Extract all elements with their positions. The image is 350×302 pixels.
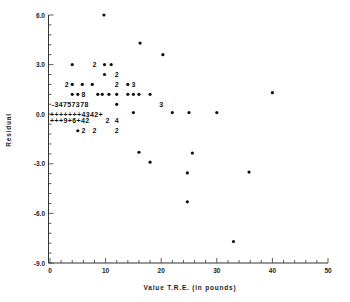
data-point (232, 240, 235, 243)
x-axis (49, 258, 329, 263)
data-point-count: 2 (65, 81, 69, 88)
y-tick-label: 6.0 (36, 12, 45, 19)
y-tick-label: -9.0 (34, 260, 46, 267)
data-point (186, 200, 189, 203)
data-point (96, 93, 99, 96)
data-points: 22223834222 (65, 13, 274, 243)
data-point (126, 83, 129, 86)
data-point (271, 91, 274, 94)
data-point (137, 151, 140, 154)
data-point (148, 161, 151, 164)
x-tick-label: 40 (269, 267, 277, 274)
x-tick-labels: 01020304050 (48, 267, 332, 274)
y-tick-label: 3.0 (36, 61, 45, 68)
data-point (110, 63, 113, 66)
data-point (115, 103, 118, 106)
data-point-count: 8 (81, 91, 85, 98)
data-point (132, 111, 135, 114)
x-tick-label: 50 (324, 267, 332, 274)
data-point (187, 111, 190, 114)
overlap-count-rows: -34757378+++++++4342++++9+6+422 (50, 101, 110, 125)
x-tick-label: 10 (102, 267, 110, 274)
data-point (101, 93, 104, 96)
data-point-count: 4 (115, 117, 119, 124)
data-point (161, 53, 164, 56)
data-point (76, 129, 79, 132)
data-point (81, 83, 84, 86)
data-point-count: 2 (93, 61, 97, 68)
data-point (103, 73, 106, 76)
data-point-count: 2 (115, 81, 119, 88)
y-tick-label: -6.0 (34, 210, 46, 217)
data-point (186, 171, 189, 174)
data-point-count: 2 (81, 127, 85, 134)
data-point (126, 93, 129, 96)
residual-scatter-plot: 6.03.00.0-3.0-6.0-9.0 01020304050 Value … (0, 0, 350, 302)
overlap-count-row: 2 (106, 117, 110, 124)
data-point (138, 42, 141, 45)
y-tick-label: 0.0 (36, 111, 45, 118)
data-point-count: 2 (115, 71, 119, 78)
overlap-count-row: +++9+6+42 (50, 117, 90, 124)
x-tick-label: 30 (213, 267, 221, 274)
data-point-count: 3 (131, 81, 135, 88)
y-tick-label: -3.0 (34, 160, 46, 167)
data-point (132, 93, 135, 96)
data-point-count: 2 (93, 127, 97, 134)
data-point (76, 93, 79, 96)
data-point (71, 63, 74, 66)
data-point (137, 93, 140, 96)
data-point (103, 63, 106, 66)
x-axis-title: Value T.R.E. (in pounds) (144, 284, 237, 292)
data-point (171, 111, 174, 114)
y-axis (49, 15, 54, 263)
data-point (191, 151, 194, 154)
y-tick-labels: 6.03.00.0-3.0-6.0-9.0 (34, 12, 46, 267)
y-axis-title: Residual (5, 113, 12, 147)
x-tick-label: 0 (48, 267, 52, 274)
data-point (71, 83, 74, 86)
data-point (247, 170, 250, 173)
data-point-count: 2 (115, 127, 119, 134)
data-point (215, 111, 218, 114)
data-point (148, 93, 151, 96)
data-point (71, 93, 74, 96)
overlap-count-row: -34757378 (52, 101, 89, 108)
data-point (115, 93, 118, 96)
data-point (107, 93, 110, 96)
data-point-count: 3 (159, 101, 163, 108)
data-point (91, 83, 94, 86)
x-tick-label: 20 (158, 267, 166, 274)
data-point (102, 13, 105, 16)
